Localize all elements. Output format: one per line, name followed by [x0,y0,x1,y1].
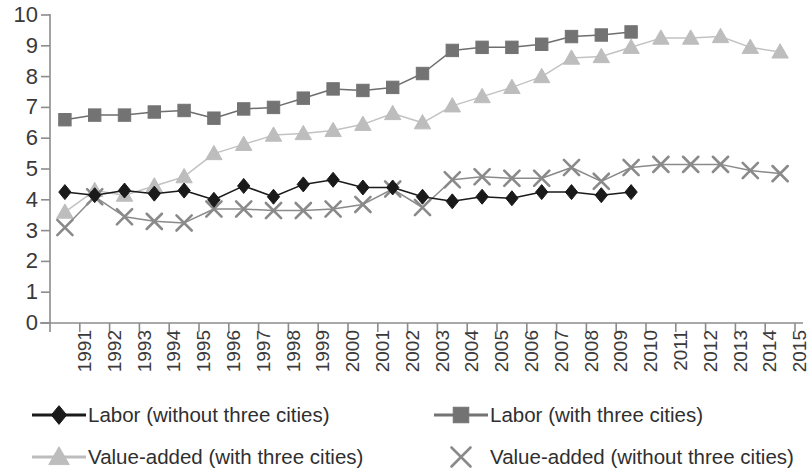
x-axis-tick-label: 2001 [373,330,393,394]
square-marker-icon [453,407,469,423]
legend-label: Value-added (with three cities) [88,445,363,469]
diamond-marker-icon [446,194,458,209]
square-marker-icon [327,83,339,95]
square-marker-icon [148,106,160,118]
x-axis-tick-label: 1991 [75,330,95,394]
legend-label: Value-added (without three cities) [490,445,794,469]
triangle-marker-icon [57,204,73,218]
x-axis-tick-label: 1997 [254,330,274,394]
x-axis-tick-label: 2007 [552,330,572,394]
diamond-marker-icon [30,402,88,428]
diamond-marker-icon [595,188,607,203]
square-marker-icon [432,402,490,428]
square-marker-icon [267,101,279,113]
cross-marker-icon [452,448,471,467]
square-marker-icon [59,114,71,126]
square-marker-icon [625,26,637,38]
cross-marker-icon [432,444,490,470]
x-axis-tick-label: 2014 [760,330,780,394]
diamond-marker-icon [51,406,66,425]
x-axis-tick-label: 1995 [194,330,214,394]
diamond-marker-icon [506,191,518,206]
x-axis-tick-label: 2002 [403,330,423,394]
triangle-marker-icon [653,30,669,44]
legend-label: Labor (with three cities) [490,403,703,427]
chart-container: 109876543210 199119921993199419951996199… [0,0,807,474]
triangle-marker-icon [176,169,192,183]
cross-marker-icon [564,160,579,175]
square-marker-icon [387,81,399,93]
diamond-marker-icon [178,183,190,198]
chart-legend: Labor (without three cities) Labor (with… [0,398,807,474]
x-axis-tick-label: 2013 [731,330,751,394]
x-axis-tick-label: 2005 [492,330,512,394]
legend-item-labor-with-three-cities[interactable]: Labor (with three cities) [432,400,703,430]
diamond-marker-icon [536,185,548,200]
square-marker-icon [178,104,190,116]
square-marker-icon [118,109,130,121]
triangle-marker-icon [683,30,699,44]
x-axis-tick-label: 1992 [105,330,125,394]
square-marker-icon [357,84,369,96]
triangle-marker-icon [534,68,550,82]
square-marker-icon [536,38,548,50]
series-labor-without-three-cities [59,172,638,209]
legend-item-value-added-with-three-cities[interactable]: Value-added (with three cities) [30,442,363,472]
diamond-marker-icon [476,189,488,204]
triangle-marker-icon [712,28,728,42]
x-axis-tick-label: 1993 [135,330,155,394]
square-marker-icon [432,402,490,428]
x-axis-labels: 1991199219931994199519961997199819992000… [0,330,807,402]
diamond-marker-icon [30,402,88,428]
square-marker-icon [595,29,607,41]
triangle-marker-icon [504,79,520,93]
square-marker-icon [476,41,488,53]
square-marker-icon [208,112,220,124]
square-marker-icon [565,30,577,42]
diamond-marker-icon [565,185,577,200]
x-axis-tick-label: 1994 [164,330,184,394]
triangle-marker-icon [355,116,371,130]
square-marker-icon [416,67,428,79]
cross-marker-icon [355,197,370,212]
square-marker-icon [238,103,250,115]
diamond-marker-icon [297,177,309,192]
x-axis-tick-label: 1999 [313,330,333,394]
cross-marker-icon [57,220,72,235]
cross-marker-icon [432,444,490,470]
x-axis-tick-label: 2011 [671,330,691,394]
legend-item-labor-without-three-cities[interactable]: Labor (without three cities) [30,400,330,430]
x-axis-tick-label: 2015 [790,330,807,394]
legend-label: Labor (without three cities) [88,403,330,427]
diamond-marker-icon [267,189,279,204]
legend-item-value-added-without-three-cities[interactable]: Value-added (without three cities) [432,442,794,472]
diamond-marker-icon [357,180,369,195]
triangle-marker-icon [30,444,88,470]
x-axis-tick-label: 2009 [611,330,631,394]
triangle-marker-icon [30,444,88,470]
diamond-marker-icon [327,172,339,187]
x-axis-tick-label: 2004 [462,330,482,394]
cross-marker-icon [117,209,132,224]
square-marker-icon [89,109,101,121]
diamond-marker-icon [238,178,250,193]
square-marker-icon [446,44,458,56]
triangle-marker-icon [563,50,579,64]
x-axis-tick-label: 2012 [701,330,721,394]
x-axis-tick-label: 2008 [582,330,602,394]
x-axis-tick-label: 2003 [433,330,453,394]
triangle-marker-icon [385,105,401,119]
triangle-marker-icon [742,39,758,53]
diamond-marker-icon [625,185,637,200]
triangle-marker-icon [265,127,281,141]
x-axis-tick-label: 2010 [641,330,661,394]
x-axis-tick-label: 2006 [522,330,542,394]
square-marker-icon [297,92,309,104]
x-axis-tick-label: 2000 [343,330,363,394]
series-labor-with-three-cities [59,26,638,126]
diamond-marker-icon [59,185,71,200]
square-marker-icon [506,41,518,53]
x-axis-tick-label: 1998 [284,330,304,394]
x-axis-tick-label: 1996 [224,330,244,394]
cross-marker-icon [594,174,609,189]
